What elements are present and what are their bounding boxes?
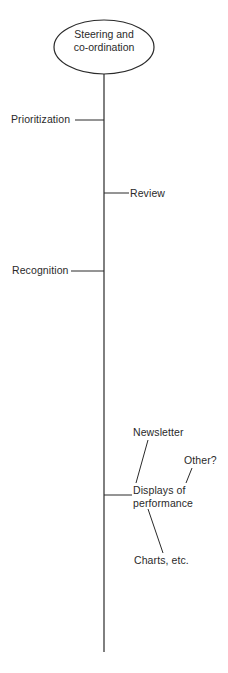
diagram-canvas: Steering and co-ordination Prioritizatio… xyxy=(0,0,228,673)
sub-branch-label-newsletter: Newsletter xyxy=(133,426,184,438)
branch-label-displays-line1: Displays of xyxy=(133,484,185,496)
charts-connector xyxy=(148,509,163,553)
root-label-line1: Steering and xyxy=(54,28,154,41)
newsletter-connector xyxy=(136,440,148,483)
branch-label-prioritization: Prioritization xyxy=(11,113,70,125)
diagram-lines xyxy=(0,0,228,673)
branch-label-displays-line2: performance xyxy=(133,497,193,509)
sub-branch-label-charts: Charts, etc. xyxy=(134,554,189,566)
branch-label-review: Review xyxy=(130,187,165,199)
root-label-line2: co-ordination xyxy=(54,41,154,54)
other-connector xyxy=(186,468,192,483)
root-node-label: Steering and co-ordination xyxy=(54,28,154,54)
branch-label-recognition: Recognition xyxy=(12,264,69,276)
sub-branch-label-other: Other? xyxy=(184,454,217,466)
